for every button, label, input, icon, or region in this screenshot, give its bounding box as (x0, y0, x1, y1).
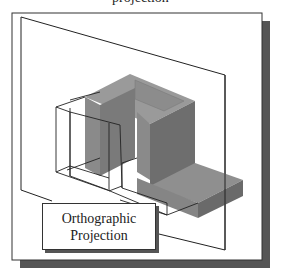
label-line-2: Projection (70, 227, 128, 244)
block-left-face (85, 97, 100, 176)
orthographic-projection-diagram: projection (0, 0, 281, 280)
label-line-1: Orthographic (62, 210, 137, 227)
label-box: Orthographic Projection (42, 203, 156, 250)
